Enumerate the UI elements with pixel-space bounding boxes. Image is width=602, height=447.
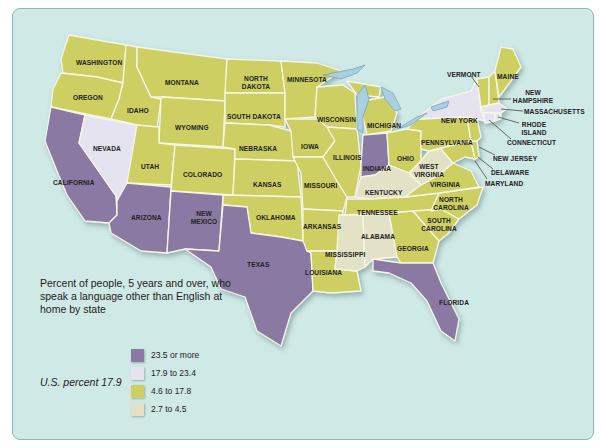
label-colorado: COLORADO	[183, 171, 222, 179]
label-oklahoma: OKLAHOMA	[256, 214, 296, 222]
legend-label: 2.7 to 4.5	[151, 404, 186, 414]
label-maryland: MARYLAND	[485, 180, 523, 188]
label-arkansas: ARKANSAS	[303, 223, 341, 231]
legend-title: Percent of people, 5 years and over, who…	[40, 277, 240, 316]
label-idaho: IDAHO	[127, 107, 149, 115]
state-montana	[137, 47, 227, 101]
label-north-dakota: NORTH DAKOTA	[239, 75, 273, 90]
label-kentucky: KENTUCKY	[365, 189, 402, 197]
label-missouri: MISSOURI	[304, 182, 337, 190]
label-wyoming: WYOMING	[175, 124, 209, 132]
label-ohio: OHIO	[397, 155, 414, 163]
label-new-york: NEW YORK	[441, 117, 478, 125]
label-texas: TEXAS	[247, 261, 269, 269]
label-maine: MAINE	[497, 73, 519, 81]
legend-item-high: 23.5 or more	[131, 347, 199, 363]
label-delaware: DELAWARE	[491, 169, 529, 177]
legend-label: 23.5 or more	[151, 350, 199, 360]
label-nevada: NEVADA	[93, 145, 121, 153]
label-michigan: MICHIGAN	[367, 122, 401, 130]
state-new-york	[417, 79, 485, 121]
map-frame: WASHINGTON OREGON IDAHO MONTANA NORTH DA…	[12, 8, 594, 440]
label-oregon: OREGON	[73, 94, 103, 102]
label-nebraska: NEBRASKA	[239, 145, 277, 153]
label-iowa: IOWA	[301, 143, 319, 151]
label-kansas: KANSAS	[253, 181, 281, 189]
label-north-carolina: NORTH CAROLINA	[431, 196, 471, 211]
label-arizona: ARIZONA	[131, 214, 162, 222]
swatch-purple	[131, 349, 144, 362]
state-south-dakota	[225, 93, 285, 127]
label-new-jersey: NEW JERSEY	[493, 155, 537, 163]
label-georgia: GEORGIA	[397, 245, 429, 253]
legend-item-low: 2.7 to 4.5	[131, 401, 186, 417]
state-connecticut	[483, 113, 495, 123]
label-california: CALIFORNIA	[53, 179, 95, 187]
state-kansas	[233, 159, 301, 197]
label-vermont: VERMONT	[447, 71, 481, 79]
label-south-carolina: SOUTH CAROLINA	[419, 217, 459, 232]
label-alabama: ALABAMA	[361, 233, 395, 241]
label-rhode-island: RHODE ISLAND	[521, 121, 547, 136]
label-utah: UTAH	[141, 163, 159, 171]
swatch-beige	[131, 403, 144, 416]
label-tennessee: TENNESSEE	[357, 209, 398, 217]
label-south-dakota: SOUTH DAKOTA	[227, 113, 281, 121]
label-massachusetts: MASSACHUSETTS	[524, 108, 585, 116]
label-connecticut: CONNECTICUT	[507, 139, 556, 147]
label-florida: FLORIDA	[439, 299, 469, 307]
label-mississippi: MISSISSIPPI	[325, 251, 365, 259]
legend-item-mid: 4.6 to 17.8	[131, 383, 191, 399]
state-colorado	[171, 145, 235, 195]
label-washington: WASHINGTON	[76, 59, 122, 67]
label-pennsylvania: PENNSYLVANIA	[421, 139, 473, 147]
label-new-hampshire: NEW HAMPSHIRE	[511, 89, 555, 104]
state-wyoming	[159, 97, 225, 147]
swatch-lavender	[131, 367, 144, 380]
label-louisiana: LOUISIANA	[305, 269, 342, 277]
legend-label: 17.9 to 23.4	[151, 368, 196, 378]
swatch-olive	[131, 385, 144, 398]
label-new-mexico: NEW MEXICO	[187, 210, 221, 225]
label-indiana: INDIANA	[363, 165, 391, 173]
legend-item-mid-high: 17.9 to 23.4	[131, 365, 196, 381]
label-montana: MONTANA	[165, 79, 199, 87]
us-percent-label: U.S. percent 17.9	[40, 376, 122, 388]
label-illinois: ILLINOIS	[333, 154, 362, 162]
label-wisconsin: WISCONSIN	[317, 116, 356, 124]
label-virginia: VIRGINIA	[430, 181, 460, 189]
label-west-virginia: WEST VIRGINIA	[411, 163, 447, 178]
legend-label: 4.6 to 17.8	[151, 386, 191, 396]
label-minnesota: MINNESOTA	[287, 76, 327, 84]
